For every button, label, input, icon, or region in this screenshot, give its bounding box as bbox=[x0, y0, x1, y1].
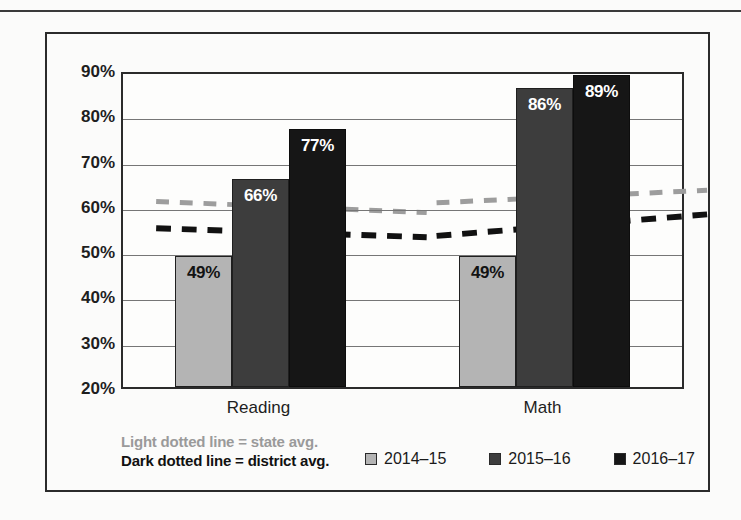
plot-area: 49%66%77%49%86%89% bbox=[121, 72, 684, 389]
note-state-average: Light dotted line = state avg. bbox=[121, 432, 329, 451]
legend-item-201516: 2015–16 bbox=[489, 450, 570, 468]
bar-value-label: 77% bbox=[290, 136, 345, 156]
legend-item-201617: 2016–17 bbox=[614, 450, 695, 468]
x-axis-label-math: Math bbox=[524, 398, 562, 418]
legend-item-201415: 2014–15 bbox=[365, 450, 446, 468]
bar-math-201617: 89% bbox=[573, 75, 630, 387]
note-district-average: Dark dotted line = district avg. bbox=[121, 451, 329, 470]
y-axis-tick-label: 90% bbox=[81, 62, 115, 82]
legend-label: 2014–15 bbox=[384, 450, 446, 468]
bar-value-label: 86% bbox=[517, 95, 572, 115]
y-axis-tick-label: 20% bbox=[81, 379, 115, 399]
bar-value-label: 66% bbox=[233, 186, 288, 206]
legend-label: 2016–17 bbox=[633, 450, 695, 468]
bar-reading-201516: 66% bbox=[232, 179, 289, 387]
bar-reading-201415: 49% bbox=[175, 256, 232, 387]
bar-value-label: 49% bbox=[176, 263, 231, 283]
figure-page: 49%66%77%49%86%89% 90%80%70%60%50%40%30%… bbox=[0, 0, 741, 520]
bar-value-label: 89% bbox=[574, 82, 629, 102]
series-legend: 2014–152015–162016–17 bbox=[365, 450, 695, 468]
top-divider-rule bbox=[0, 10, 741, 12]
bar-math-201415: 49% bbox=[459, 256, 516, 387]
y-axis-tick-label: 50% bbox=[81, 243, 115, 263]
trend-line-notes: Light dotted line = state avg. Dark dott… bbox=[121, 432, 329, 470]
legend-swatch-icon bbox=[365, 453, 377, 465]
y-axis-tick-label: 40% bbox=[81, 288, 115, 308]
y-axis-tick-label: 30% bbox=[81, 334, 115, 354]
legend-swatch-icon bbox=[489, 453, 501, 465]
bar-reading-201617: 77% bbox=[289, 129, 346, 387]
legend-label: 2015–16 bbox=[508, 450, 570, 468]
bar-math-201516: 86% bbox=[516, 88, 573, 387]
y-axis-tick-label: 80% bbox=[81, 107, 115, 127]
x-axis-label-reading: Reading bbox=[227, 398, 290, 418]
chart-figure-box: 49%66%77%49%86%89% 90%80%70%60%50%40%30%… bbox=[45, 32, 710, 492]
legend-swatch-icon bbox=[614, 453, 626, 465]
y-axis-tick-label: 70% bbox=[81, 153, 115, 173]
y-axis-tick-label: 60% bbox=[81, 198, 115, 218]
bar-value-label: 49% bbox=[460, 263, 515, 283]
